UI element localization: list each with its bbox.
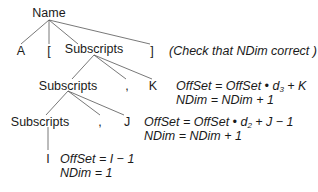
node-a: A xyxy=(17,44,25,58)
edge-sub1-k xyxy=(94,55,152,79)
action-j-ndim: NDim = NDim + 1 xyxy=(144,129,242,143)
edge-name-a xyxy=(21,20,49,44)
action-i-ndim: NDim = 1 xyxy=(60,166,112,180)
edge-sub2-sub3 xyxy=(46,91,68,115)
node-subscripts-1: Subscripts xyxy=(65,42,123,56)
node-name: Name xyxy=(32,6,65,20)
note-check-ndim: (Check that NDim correct ) xyxy=(169,44,317,58)
node-comma-1: , xyxy=(125,79,128,93)
edge-sub2-j xyxy=(68,91,124,115)
action-i-offset: OffSet = I − 1 xyxy=(60,152,134,166)
edge-sub1-sub2 xyxy=(72,55,94,79)
edge-name-rbracket xyxy=(49,20,150,44)
node-rbracket: ] xyxy=(150,44,153,58)
action-k-offset: OffSet = OffSet • d3 + K xyxy=(176,79,306,93)
node-k: K xyxy=(149,79,157,93)
node-comma-2: , xyxy=(98,115,101,129)
action-j-offset: OffSet = OffSet • d2 + J − 1 xyxy=(144,115,294,129)
action-k-ndim: NDim = NDim + 1 xyxy=(176,93,274,107)
node-subscripts-3: Subscripts xyxy=(11,115,69,129)
node-i: I xyxy=(46,152,49,166)
node-j: J xyxy=(124,115,130,129)
node-lbracket: [ xyxy=(47,44,50,58)
node-subscripts-2: Subscripts xyxy=(39,79,97,93)
edge-sub1-comma xyxy=(94,55,126,79)
